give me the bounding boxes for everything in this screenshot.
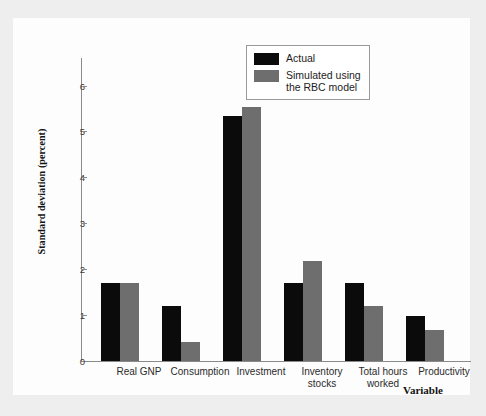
y-tick-label: 3 <box>55 218 85 229</box>
legend-label: Actual <box>286 52 315 64</box>
bar-actual <box>345 283 364 361</box>
y-tick-mark <box>82 269 87 270</box>
y-tick-label: 5 <box>55 126 85 137</box>
legend-item: Simulated using the RBC model <box>254 69 361 93</box>
bar-simulated <box>242 107 261 361</box>
y-tick-label: 0 <box>55 356 85 367</box>
y-tick-label: 6 <box>55 80 85 91</box>
legend-swatch-actual <box>254 53 279 65</box>
legend-label: Simulated using the RBC model <box>286 69 361 93</box>
y-tick-mark <box>82 223 87 224</box>
bar-simulated <box>181 342 200 361</box>
y-tick-mark <box>82 315 87 316</box>
bar-simulated <box>303 261 322 361</box>
legend-item: Actual <box>254 52 361 65</box>
y-axis-title: Standard deviation (percent) <box>36 92 47 292</box>
y-tick-mark <box>82 86 87 87</box>
figure-container: Standard deviation (percent) Variable 01… <box>0 0 486 416</box>
y-tick-label: 1 <box>55 310 85 321</box>
bar-actual <box>284 283 303 361</box>
bar-actual <box>101 283 120 361</box>
plot-area: 0123456 Real GNPConsumptionInvestmentInv… <box>81 58 471 362</box>
y-tick-label: 4 <box>55 172 85 183</box>
legend-swatch-sim <box>254 70 279 82</box>
chart-legend: ActualSimulated using the RBC model <box>246 45 370 100</box>
y-tick-mark <box>82 177 87 178</box>
bar-actual <box>162 306 181 361</box>
bar-simulated <box>364 306 383 361</box>
x-axis-line <box>81 361 471 362</box>
bar-actual <box>406 316 425 361</box>
bar-simulated <box>120 283 139 361</box>
y-tick-mark <box>82 131 87 132</box>
bar-simulated <box>425 330 444 361</box>
y-tick-label: 2 <box>55 264 85 275</box>
bar-actual <box>223 116 242 361</box>
x-tick-label: Productivity <box>401 366 486 378</box>
figure-plate: Standard deviation (percent) Variable 01… <box>13 18 470 395</box>
